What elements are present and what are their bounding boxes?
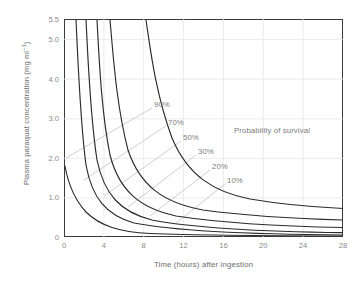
x-axis-title: Time (hours) after ingestion — [64, 260, 343, 269]
x-tick-label-20: 20 — [251, 241, 275, 250]
x-tick-label-12: 12 — [172, 241, 196, 250]
y-tick-label-4-0: 4.0 — [36, 75, 59, 84]
curve-label-10-percent: 10% — [227, 176, 243, 185]
curve-label-90-percent: 90% — [154, 100, 170, 109]
x-tick-label-4: 4 — [92, 241, 116, 250]
y-tick-label-2-0: 2.0 — [36, 154, 59, 163]
paraquat-survival-chart: Plasma paraquat concentration (mg ml−1) … — [0, 0, 361, 283]
x-tick-label-28: 28 — [331, 241, 355, 250]
curve-label-30-percent: 30% — [198, 147, 214, 156]
x-tick-label-24: 24 — [291, 241, 315, 250]
x-tick-label-8: 8 — [132, 241, 156, 250]
y-axis-title: Plasma paraquat concentration (mg ml−1) — [21, 3, 32, 223]
y-tick-label-5-0: 5.0 — [36, 35, 59, 44]
curve-label-70-percent: 70% — [168, 118, 184, 127]
y-axis-title-tail: ) — [22, 42, 31, 45]
y-axis-title-superscript: −1 — [21, 44, 27, 51]
curve-label-20-percent: 20% — [212, 162, 228, 171]
curve-label-50-percent: 50% — [183, 133, 199, 142]
y-tick-label-5-5: 5.5 — [36, 15, 59, 24]
y-tick-label-3-0: 3.0 — [36, 114, 59, 123]
x-tick-label-0: 0 — [52, 241, 76, 250]
x-tick-label-16: 16 — [211, 241, 235, 250]
y-tick-label-1-0: 1.0 — [36, 193, 59, 202]
y-axis-title-main: Plasma paraquat concentration (mg ml — [22, 51, 31, 185]
probability-of-survival-note: Probability of survival — [234, 126, 310, 135]
